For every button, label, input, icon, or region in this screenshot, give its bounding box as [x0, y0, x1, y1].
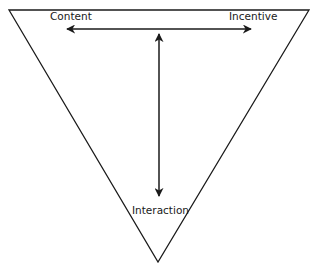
- interaction-label: Interaction: [132, 204, 189, 216]
- content-label: Content: [50, 10, 92, 22]
- incentive-label: Incentive: [229, 10, 277, 22]
- triangle-diagram: Content Incentive Interaction: [0, 0, 313, 272]
